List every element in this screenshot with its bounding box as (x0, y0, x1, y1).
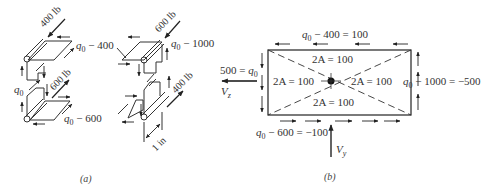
top-flow-label: q0 − 400 = 100 (302, 29, 368, 43)
diagram-canvas (0, 0, 494, 192)
bottom-flow-label: q0 − 600 = −100 (256, 127, 328, 141)
area-label-top: 2A = 100 (312, 54, 353, 65)
shear-flow-label-top-right: q0 − 1000 (171, 38, 214, 52)
area-label-left: 2A = 100 (273, 76, 314, 87)
caption-a: (a) (80, 173, 92, 184)
shear-flow-label-left: q0 (14, 84, 24, 98)
bottom-right-web (144, 82, 160, 114)
right-flow-label: q0 − 1000 = −500 (403, 76, 481, 90)
vy-label: Vy (336, 144, 346, 158)
caption-b: (b) (324, 171, 336, 182)
shear-flow-label-top-left: q0 − 400 (76, 40, 114, 54)
panel-a-right-assembly (122, 40, 169, 142)
left-flow-label: 500 = q0 (220, 65, 258, 79)
area-label-right: 2A = 100 (351, 76, 392, 87)
vz-label: Vz (221, 86, 231, 100)
shear-flow-label-bottom-left: q0 − 600 (64, 113, 102, 127)
area-label-bottom: 2A = 100 (313, 97, 354, 108)
bottom-right-stringer (141, 92, 169, 120)
